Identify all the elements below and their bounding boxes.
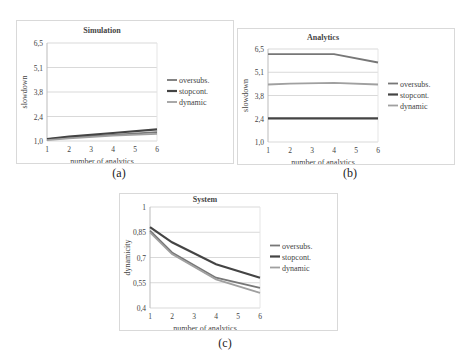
y-axis-label: slowdown [241, 79, 250, 112]
legend-label: dynamic [400, 102, 428, 111]
series-line-oversubs [268, 54, 378, 62]
x-tick-label: 1 [148, 312, 152, 321]
legend-label: dynamic [179, 98, 207, 107]
x-tick-label: 6 [155, 145, 159, 154]
series-line-dynamic [268, 83, 378, 85]
y-axis-label: dynamicity [123, 240, 132, 276]
x-tick-label: 6 [258, 312, 262, 321]
y-axis-label: slowdown [20, 76, 29, 109]
y-tick-label: 2,4 [34, 113, 44, 122]
chart-panel-system: System0,40,550,70,851123456number of ana… [119, 193, 338, 331]
x-tick-label: 4 [332, 146, 336, 155]
x-tick-label: 6 [376, 146, 380, 155]
caption-c: (c) [205, 336, 245, 351]
x-axis-label: number of analytics [173, 324, 237, 330]
x-tick-label: 3 [310, 146, 314, 155]
x-tick-label: 1 [266, 146, 270, 155]
chart-system: System0,40,550,70,851123456number of ana… [120, 194, 337, 330]
y-tick-label: 5,1 [255, 68, 265, 77]
x-axis-label: number of analytics [70, 157, 134, 163]
y-tick-label: 3,8 [255, 92, 265, 101]
chart-analytics: Analytics1,02,43,85,16,5123456number of … [238, 29, 454, 164]
chart-panel-simulation: Simulation1,02,43,85,16,5123456number of… [16, 20, 234, 164]
caption-a: (a) [99, 166, 139, 181]
chart-panel-analytics: Analytics1,02,43,85,16,5123456number of … [237, 28, 455, 165]
caption-b: (b) [330, 166, 370, 181]
x-axis-label: number of analytics [291, 158, 355, 164]
series-line-stopcont [150, 227, 260, 278]
legend-label: oversubs. [179, 76, 209, 85]
y-tick-label: 0,4 [137, 304, 147, 313]
y-tick-label: 3,8 [34, 88, 44, 97]
y-tick-label: 1 [142, 203, 146, 212]
x-tick-label: 3 [89, 145, 93, 154]
x-tick-label: 4 [214, 312, 218, 321]
y-tick-label: 5,1 [34, 64, 44, 73]
x-tick-label: 5 [133, 145, 137, 154]
legend-label: stopcont. [400, 91, 429, 100]
y-tick-label: 0,55 [133, 279, 146, 288]
chart-title: System [193, 195, 218, 204]
x-tick-label: 5 [236, 312, 240, 321]
y-tick-label: 1,0 [34, 137, 44, 146]
chart-title: Simulation [83, 26, 121, 35]
legend-label: oversubs. [400, 80, 430, 89]
legend-label: oversubs. [282, 242, 312, 251]
x-tick-label: 2 [170, 312, 174, 321]
y-tick-label: 0,7 [137, 254, 147, 263]
y-tick-label: 6,5 [255, 45, 265, 54]
x-tick-label: 4 [111, 145, 115, 154]
chart-title: Analytics [307, 33, 339, 42]
y-tick-label: 2,4 [255, 115, 265, 124]
legend-label: stopcont. [179, 87, 208, 96]
legend-label: stopcont. [282, 253, 311, 262]
x-tick-label: 3 [192, 312, 196, 321]
chart-simulation: Simulation1,02,43,85,16,5123456number of… [17, 21, 233, 163]
x-tick-label: 2 [67, 145, 71, 154]
legend-label: dynamic [282, 264, 310, 273]
y-tick-label: 6,5 [34, 39, 44, 48]
x-tick-label: 2 [288, 146, 292, 155]
y-tick-label: 0,85 [133, 228, 146, 237]
x-tick-label: 1 [45, 145, 49, 154]
x-tick-label: 5 [354, 146, 358, 155]
y-tick-label: 1,0 [255, 138, 265, 147]
